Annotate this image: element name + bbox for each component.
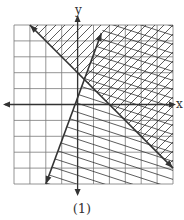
hatch-line <box>0 15 184 75</box>
hatch-line <box>0 20 70 200</box>
hatch-line <box>0 213 184 220</box>
hatch-line <box>0 20 169 200</box>
caption: (1) <box>73 201 91 216</box>
graph: y x (1) <box>0 0 184 220</box>
hatch-line <box>79 20 184 200</box>
hatch-line <box>0 20 88 200</box>
hatch-line <box>0 20 79 200</box>
hatch-line <box>0 0 184 57</box>
hatch-line <box>97 20 184 200</box>
hatch-line <box>0 20 97 200</box>
hatch-line <box>0 150 184 210</box>
hatch-line <box>0 195 184 220</box>
hatch-line <box>0 20 160 200</box>
axes <box>3 15 176 196</box>
hatch-line <box>88 20 184 200</box>
x-axis-label: x <box>176 97 183 111</box>
hatch-region-line-negative <box>0 20 184 200</box>
hatch-line <box>0 20 52 200</box>
hatch-line <box>16 20 184 200</box>
hatch-line <box>0 20 43 200</box>
y-axis-label: y <box>74 3 82 17</box>
line-positive-slope-arrow-start <box>46 175 52 184</box>
hatch-line <box>106 20 184 200</box>
hatch-line <box>0 20 34 200</box>
x-axis-arrow-left <box>3 102 10 108</box>
hatch-line <box>0 20 25 200</box>
hatch-line <box>0 20 151 200</box>
hatch-line <box>0 20 7 200</box>
hatch-line <box>0 204 184 220</box>
hatch-line <box>0 0 184 12</box>
hatch-line <box>0 20 133 200</box>
hatch-line <box>0 186 184 220</box>
shading-hatch <box>0 0 184 220</box>
hatch-line <box>0 168 184 220</box>
hatch-line <box>0 0 184 21</box>
y-axis-arrow-down <box>75 189 81 196</box>
line-positive-slope-arrow-end <box>96 33 102 42</box>
hatch-line <box>0 177 184 220</box>
hatch-line <box>43 20 184 200</box>
hatch-line <box>0 0 184 3</box>
